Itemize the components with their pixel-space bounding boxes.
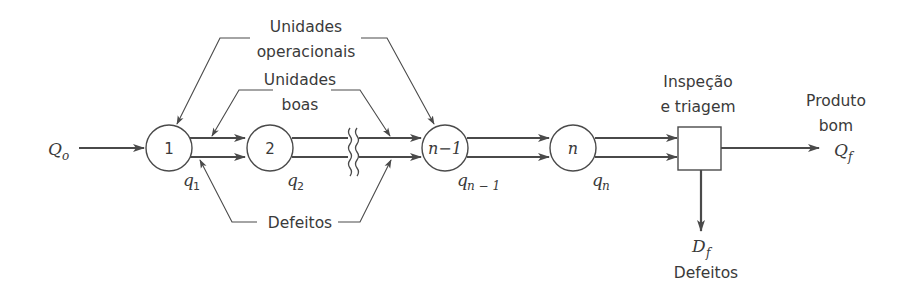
break-symbol	[349, 128, 359, 176]
svg-text:boas: boas	[282, 96, 319, 114]
yield-q1: q 1	[183, 170, 200, 193]
svg-text:Defeitos: Defeitos	[268, 214, 332, 232]
yield-q-n: q n	[592, 170, 610, 193]
node-2: 2	[247, 125, 293, 171]
svg-text:2: 2	[265, 140, 275, 158]
svg-text:bom: bom	[819, 117, 853, 135]
node-n-minus-1: n−1	[422, 125, 468, 171]
svg-text:Q: Q	[48, 139, 62, 159]
svg-text:2: 2	[297, 180, 304, 193]
svg-text:Unidades: Unidades	[270, 18, 342, 36]
input-label: Q o	[48, 139, 69, 163]
production-line-diagram: Q o 1 q 1 2 q 2 n−1 q n − 1	[0, 0, 922, 300]
svg-text:n: n	[602, 179, 610, 193]
svg-text:Unidades: Unidades	[264, 71, 336, 89]
yield-q-n-minus-1: q n − 1	[457, 170, 500, 193]
svg-text:f: f	[705, 246, 713, 260]
svg-text:operacionais: operacionais	[257, 43, 356, 61]
svg-text:f: f	[847, 150, 855, 164]
output-defects-label: D f Defeitos	[674, 236, 738, 282]
yield-q2: q 2	[287, 170, 304, 193]
svg-text:o: o	[62, 149, 69, 163]
svg-text:1: 1	[193, 180, 200, 193]
svg-text:e triagem: e triagem	[660, 98, 735, 116]
svg-text:Q: Q	[834, 140, 848, 160]
svg-text:D: D	[691, 236, 706, 256]
svg-text:n−1: n−1	[428, 139, 462, 158]
svg-text:Produto: Produto	[806, 92, 866, 110]
inspection-box	[678, 127, 721, 170]
inspection-label: Inspeção e triagem	[660, 73, 735, 116]
node-1: 1	[146, 125, 192, 171]
output-good-label: Produto bom Q f	[806, 92, 866, 164]
annotation-good-units: Unidades boas	[212, 71, 390, 136]
svg-text:1: 1	[164, 140, 174, 158]
svg-text:Defeitos: Defeitos	[674, 264, 738, 282]
svg-text:Inspeção: Inspeção	[663, 73, 732, 91]
svg-text:n: n	[568, 139, 578, 158]
node-n: n	[550, 125, 596, 171]
svg-text:n − 1: n − 1	[467, 179, 500, 193]
